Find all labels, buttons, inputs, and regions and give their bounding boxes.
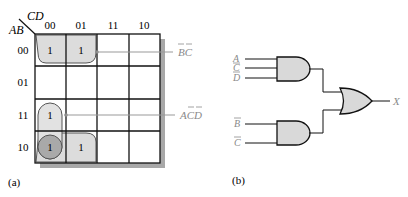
col-header: 11 [108, 19, 119, 31]
and-gate-1 [277, 57, 310, 81]
row-header: 01 [18, 76, 29, 88]
kmap-cell: 1 [78, 44, 84, 56]
row-header: 00 [18, 44, 30, 56]
kmap-cell: 1 [47, 141, 53, 153]
col-var-label: CD [27, 9, 44, 23]
wire [309, 110, 342, 133]
caption-a: (a) [8, 176, 21, 189]
gate2-input-b-label: B [234, 118, 240, 129]
kmap-cell: 1 [47, 44, 53, 56]
diagram-canvas: CD AB 00 01 11 10 00 01 11 10 1 1 1 1 1 … [0, 0, 408, 197]
col-header: 10 [139, 19, 151, 31]
karnaugh-map: CD AB 00 01 11 10 00 01 11 10 1 1 1 1 1 … [8, 9, 202, 189]
or-gate [340, 88, 372, 114]
and-gate-2 [277, 121, 310, 145]
gate1-input-d-label: D [232, 72, 241, 83]
wire [309, 69, 342, 92]
kmap-cell: 1 [47, 109, 53, 121]
row-var-label: AB [8, 23, 24, 37]
row-header: 10 [18, 141, 30, 153]
gate2-input-c-label: C [234, 137, 241, 148]
logic-circuit: A C D B C X (b) [232, 53, 401, 187]
col-header: 00 [45, 19, 57, 31]
caption-b: (b) [232, 174, 245, 187]
row-header: 11 [18, 109, 29, 121]
term-label-bc: BC [178, 46, 193, 58]
term-label-acd: ACD [179, 109, 202, 121]
output-x-label: X [392, 95, 401, 107]
col-header: 01 [76, 19, 87, 31]
kmap-cell: 1 [78, 141, 84, 153]
